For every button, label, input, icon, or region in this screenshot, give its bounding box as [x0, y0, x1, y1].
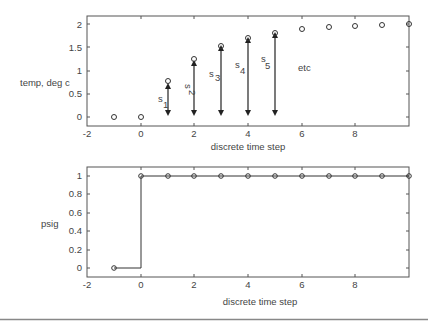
- data-point: [273, 31, 278, 36]
- figure: 0 0.5 1 1.5 2 -2 0 2 4 6 8 temp, deg c d…: [0, 0, 428, 323]
- ytick-label: 1: [77, 65, 82, 76]
- svg-text:4: 4: [240, 65, 245, 76]
- svg-text:3: 3: [215, 72, 220, 83]
- top-y-tick-labels: 0 0.5 1 1.5 2: [69, 19, 82, 122]
- etc-label: etc: [298, 62, 311, 73]
- bottom-data-markers: [112, 174, 412, 271]
- xtick-label: 8: [352, 279, 357, 290]
- top-x-axis-label: discrete time step: [211, 141, 285, 152]
- bottom-x-ticks: [141, 167, 355, 277]
- step-line: [114, 176, 409, 268]
- bottom-y-ticks: [87, 176, 409, 268]
- xtick-label: 6: [299, 279, 304, 290]
- bottom-x-tick-labels: -2 0 2 4 6 8: [83, 279, 358, 290]
- bottom-plot-frame: [87, 167, 409, 277]
- ytick-label: 1.5: [69, 42, 82, 53]
- step-labels: s 1 s 2 s 3 s 4 s 5: [158, 53, 270, 110]
- data-point: [353, 24, 358, 29]
- bottom-y-axis-label: psig: [41, 218, 58, 229]
- svg-text:s: s: [183, 84, 194, 89]
- xtick-label: 0: [138, 279, 143, 290]
- top-data-markers: [112, 22, 412, 120]
- data-point: [192, 57, 197, 62]
- data-point: [380, 23, 385, 28]
- data-point: [327, 25, 332, 30]
- step-arrows: [168, 35, 275, 113]
- ytick-label: 0.8: [69, 188, 82, 199]
- svg-text:5: 5: [265, 60, 270, 71]
- xtick-label: -2: [83, 279, 91, 290]
- ytick-label: 0.2: [69, 244, 82, 255]
- top-x-tick-labels: -2 0 2 4 6 8: [83, 128, 358, 139]
- bottom-y-tick-labels: 0 0.2 0.4 0.6 0.8 1: [69, 170, 82, 273]
- xtick-label: 6: [299, 128, 304, 139]
- ytick-label: 2: [77, 19, 82, 30]
- xtick-label: 8: [352, 128, 357, 139]
- top-plot: 0 0.5 1 1.5 2 -2 0 2 4 6 8 temp, deg c d…: [20, 16, 412, 152]
- xtick-label: 2: [191, 128, 196, 139]
- ytick-label: 0.5: [69, 88, 82, 99]
- svg-text:s: s: [209, 68, 214, 79]
- data-point: [112, 115, 117, 120]
- xtick-label: 4: [245, 279, 250, 290]
- xtick-label: -2: [83, 128, 91, 139]
- bottom-x-axis-label: discrete time step: [223, 296, 297, 307]
- data-point: [300, 27, 305, 32]
- ytick-label: 0.6: [69, 207, 82, 218]
- data-point: [246, 36, 251, 41]
- bottom-plot: 0 0.2 0.4 0.6 0.8 1 -2 0 2 4 6 8 psig di…: [41, 167, 411, 307]
- ytick-label: 1: [77, 170, 82, 181]
- ytick-label: 0: [77, 111, 82, 122]
- svg-text:1: 1: [163, 99, 168, 110]
- top-y-axis-label: temp, deg c: [20, 77, 70, 88]
- data-point: [139, 115, 144, 120]
- svg-text:2: 2: [187, 90, 198, 95]
- xtick-label: 2: [191, 279, 196, 290]
- xtick-label: 0: [138, 128, 143, 139]
- xtick-label: 4: [245, 128, 250, 139]
- data-point: [166, 79, 171, 84]
- data-point: [219, 44, 224, 49]
- ytick-label: 0.4: [69, 225, 82, 236]
- ytick-label: 0: [77, 262, 82, 273]
